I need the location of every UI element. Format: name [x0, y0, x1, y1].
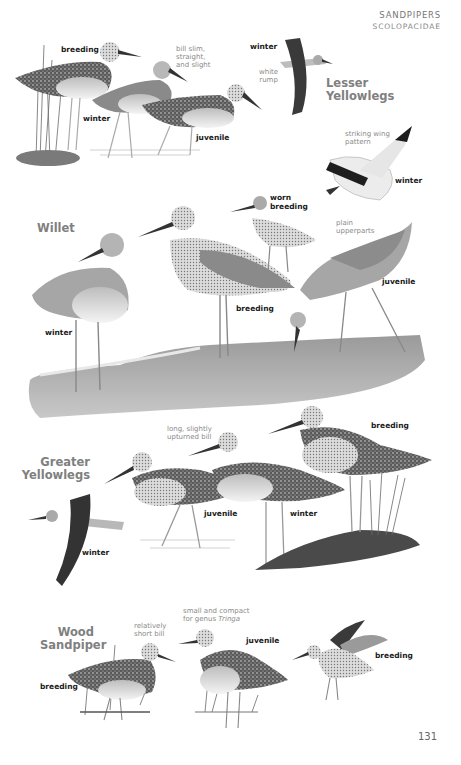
note-text: for genus: [183, 615, 218, 623]
note-line: upperparts: [336, 227, 375, 235]
lesser-yellowlegs-art: [15, 38, 333, 166]
genus-name: Tringa: [218, 615, 240, 623]
label-line: worn: [270, 193, 308, 202]
note-willet-plain-upperparts: plain upperparts: [336, 219, 375, 235]
species-title-greater-yellowlegs: Greater Yellowlegs: [36, 456, 90, 482]
wood-sandpiper-art: [68, 620, 388, 728]
label-lesser-breeding: breeding: [61, 45, 99, 54]
label-lesser-winter: winter: [83, 114, 110, 123]
note-line: and slight: [176, 61, 211, 69]
note-line: white: [259, 68, 278, 76]
note-line: small and compact: [183, 607, 250, 615]
label-willet-juvenile: juvenile: [382, 277, 415, 286]
label-lesser-winter-flight: winter: [250, 42, 277, 51]
label-greater-juvenile: juvenile: [204, 509, 237, 518]
species-title-lesser-yellowlegs: Lesser Yellowlegs: [326, 77, 394, 103]
note-lesser-bill: bill slim, straight, and slight: [176, 45, 211, 69]
note-line: bill slim,: [176, 45, 211, 53]
species-title-line-2: Yellowlegs: [326, 90, 394, 103]
label-wood-juvenile: juvenile: [246, 636, 279, 645]
species-title-line-2: Sandpiper: [40, 639, 94, 652]
label-greater-winter-flight: winter: [82, 548, 109, 557]
note-line: striking wing: [345, 130, 390, 138]
note-line: rump: [259, 76, 278, 84]
family-common-name: SANDPIPERS: [379, 10, 441, 20]
label-greater-breeding: breeding: [371, 421, 409, 430]
species-title-line-2: Yellowlegs: [18, 469, 90, 482]
note-line: upturned bill: [167, 433, 212, 441]
note-willet-wing-pattern: striking wing pattern: [345, 130, 390, 146]
note-greater-bill: long, slightly upturned bill: [167, 425, 212, 441]
species-title-wood-sandpiper: Wood Sandpiper: [40, 626, 94, 652]
label-willet-winter-flight: winter: [395, 176, 422, 185]
note-line: long, slightly: [167, 425, 212, 433]
label-willet-breeding: breeding: [236, 304, 274, 313]
label-greater-winter: winter: [290, 509, 317, 518]
note-wood-compact: small and compact for genus Tringa: [183, 607, 250, 623]
family-scientific-name: SCOLOPACIDAE: [372, 22, 441, 31]
note-lesser-white-rump: white rump: [259, 68, 278, 84]
note-line: straight,: [176, 53, 211, 61]
note-wood-bill: relatively short bill: [134, 622, 167, 638]
page-number: 131: [418, 731, 437, 742]
species-title-willet: Willet: [37, 222, 75, 235]
note-line: relatively: [134, 622, 167, 630]
note-line: pattern: [345, 138, 390, 146]
label-willet-winter: winter: [45, 328, 72, 337]
greater-yellowlegs-art: [28, 406, 432, 586]
label-wood-breeding-left: breeding: [40, 682, 78, 691]
label-willet-worn-breeding: worn breeding: [270, 193, 308, 211]
note-line: plain: [336, 219, 375, 227]
label-wood-breeding-right: breeding: [375, 651, 413, 660]
label-lesser-juvenile: juvenile: [196, 133, 229, 142]
label-line: breeding: [270, 202, 308, 211]
note-line: for genus Tringa: [183, 615, 250, 623]
note-line: short bill: [134, 630, 167, 638]
